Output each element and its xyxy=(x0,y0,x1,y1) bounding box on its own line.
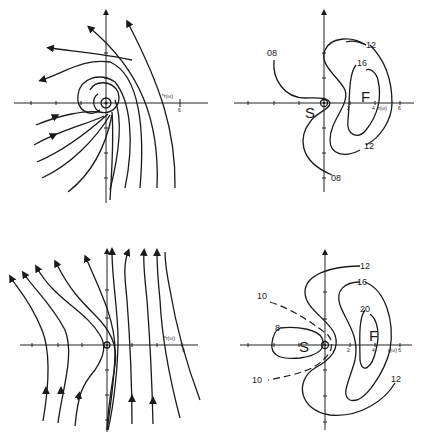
contour-label: 16 xyxy=(357,277,367,287)
panel-top-right: 08 08 12 12 16 S F 2 4 r(ω) 6 xyxy=(234,12,414,192)
tick-label: 6 xyxy=(178,107,181,113)
tick-label: 4 xyxy=(372,105,375,111)
contour-label: 12 xyxy=(360,261,370,271)
tick-label: 2 xyxy=(347,105,350,111)
contour-label: 16 xyxy=(357,58,367,68)
saddle-label: S xyxy=(299,338,309,355)
contour-label: 8 xyxy=(275,323,280,333)
tick-label: 4 xyxy=(372,347,375,353)
axis-label: r(ω) xyxy=(378,105,387,111)
panel-bottom-right: 12 16 20 8 10 10 12 S F 2 4 r(ω) 6 xyxy=(240,252,412,430)
axis-label: r(ω) 6 xyxy=(388,347,401,353)
panel-bottom-left: *r(ω) 6 xyxy=(11,251,200,432)
contour-label: 12 xyxy=(366,40,376,50)
focus-label: F xyxy=(369,327,378,344)
focus-label: F xyxy=(361,88,370,105)
contour-label: 10 xyxy=(257,291,267,301)
contour-label: 12 xyxy=(364,141,374,151)
axis-label: *r(ω) xyxy=(162,93,173,99)
panel-top-left: *r(ω) 6 xyxy=(14,12,208,203)
contour-label: 10 xyxy=(252,375,262,385)
contour-label: 08 xyxy=(267,48,277,58)
axis-label: *r(ω) xyxy=(164,335,175,341)
figure: *r(ω) 6 08 0 xyxy=(0,0,424,439)
contour-label: 20 xyxy=(360,304,370,314)
contour-label: 08 xyxy=(331,173,341,183)
contour-label: 12 xyxy=(391,374,401,384)
saddle-label: S xyxy=(305,104,315,121)
tick-label: 2 xyxy=(347,347,350,353)
tick-label: 6 xyxy=(398,105,401,111)
